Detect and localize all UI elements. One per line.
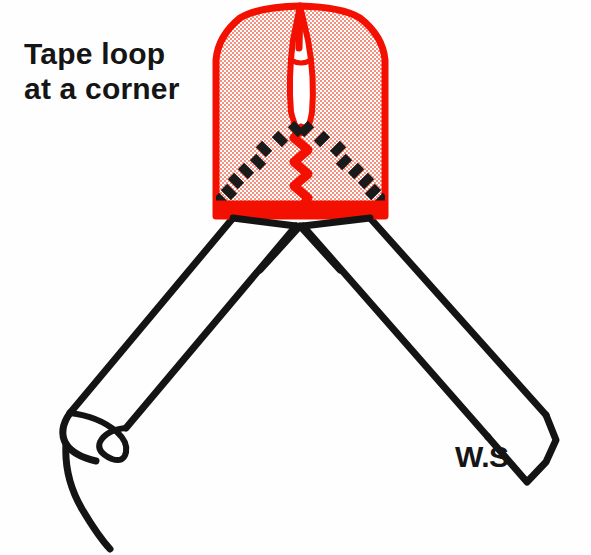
caption-line-1: Tape loop xyxy=(24,36,229,71)
figure-root: Tape loop at a corner W.S. xyxy=(0,0,591,555)
wrong-side-label: W.S. xyxy=(455,440,516,474)
caption-line-2: at a corner xyxy=(24,71,229,106)
caption-tape-loop-at-a-corner: Tape loop at a corner xyxy=(24,36,229,107)
tape-loop-fold-line xyxy=(299,6,300,48)
